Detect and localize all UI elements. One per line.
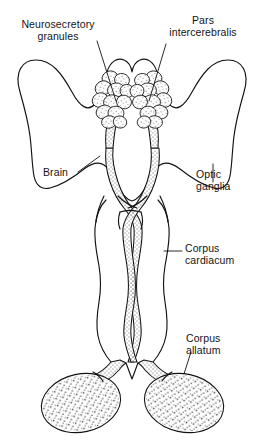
label-neurosecretory-granules: Neurosecretory granules bbox=[6, 18, 110, 42]
label-brain: Brain bbox=[43, 166, 103, 178]
anatomy-diagram bbox=[0, 0, 263, 442]
neurosecretory-cluster-left bbox=[90, 69, 136, 148]
corpus-cardiacum-right bbox=[153, 200, 169, 362]
corpus-cardiacum-left bbox=[95, 200, 111, 362]
figure-root: Neurosecretory granules Pars intercerebr… bbox=[0, 0, 263, 442]
label-optic-ganglia: Optic ganglia bbox=[196, 168, 258, 192]
label-corpus-cardiacum: Corpus cardiacum bbox=[185, 242, 261, 266]
label-corpus-allatum: Corpus allatum bbox=[186, 332, 260, 356]
nervi-corporis-cardiaci bbox=[106, 148, 160, 362]
neurosecretory-cluster-right bbox=[128, 69, 174, 148]
label-pars-intercerebralis: Pars intercerebralis bbox=[148, 14, 258, 38]
corpus-allatum-left bbox=[36, 366, 126, 439]
